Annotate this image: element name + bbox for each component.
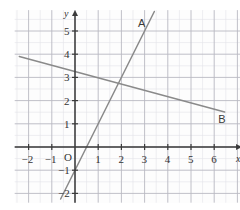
line-label-a: A: [138, 18, 145, 29]
graph-figure: −2−112345654321−1−2OxyAB: [0, 0, 240, 210]
x-tick-label-4: 4: [165, 154, 171, 165]
x-tick-label-3: 3: [142, 154, 148, 165]
y-tick-label-2: 2: [64, 96, 70, 107]
coordinate-plane: [0, 0, 240, 210]
y-axis-label: y: [64, 9, 68, 19]
x-tick-label-2: 2: [118, 154, 124, 165]
y-tick-label-5: 5: [64, 26, 70, 37]
y-tick-label-1: 1: [64, 119, 70, 130]
x-tick-label-5: 5: [188, 154, 194, 165]
x-tick-label-neg2: −2: [22, 154, 34, 165]
x-tick-label-neg1: −1: [45, 154, 57, 165]
line-label-b: B: [218, 114, 225, 125]
x-axis-label: x: [236, 154, 240, 164]
origin-label: O: [64, 152, 72, 163]
x-tick-label-1: 1: [95, 154, 101, 165]
x-tick-label-6: 6: [211, 154, 217, 165]
y-tick-label-neg1: −1: [58, 165, 70, 176]
y-tick-label-neg2: −2: [58, 188, 70, 199]
y-tick-label-3: 3: [64, 72, 70, 83]
y-tick-label-4: 4: [64, 49, 70, 60]
